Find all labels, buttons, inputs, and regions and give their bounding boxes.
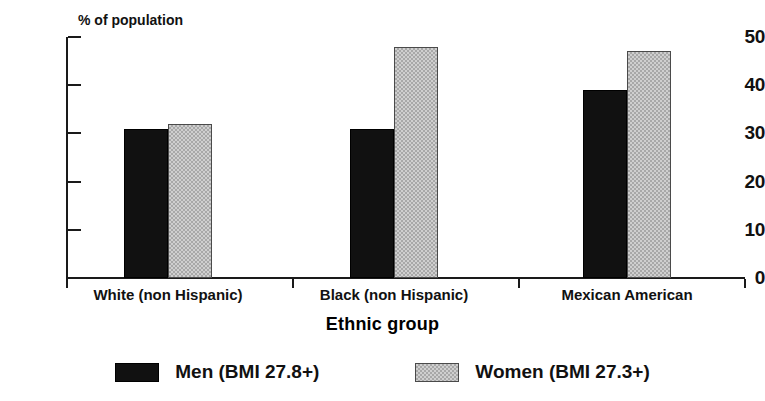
bar-chart: % of population 50 40 30 20 10 0 White (… [0,0,765,401]
bar-women-black [394,47,438,278]
bar-men-white [124,129,168,278]
y-axis-line [66,37,68,279]
y-axis-label-20: 20 [707,172,765,191]
y-axis-tick-30 [68,132,81,134]
legend-swatch-women-icon [415,363,459,382]
x-axis-category-white: White (non Hispanic) [58,286,278,303]
x-axis-category-mexican: Mexican American [517,286,737,303]
y-axis-tick-20 [68,181,81,183]
y-axis-label-0: 0 [707,268,765,287]
bar-women-white [168,124,212,278]
bar-men-black [350,129,394,278]
y-axis-unit-label: % of population [78,12,183,28]
y-axis-tick-10 [68,229,81,231]
legend-swatch-men-icon [115,363,159,382]
y-axis-label-40: 40 [707,75,765,94]
bar-women-mexican [627,51,671,278]
legend-label-men: Men (BMI 27.8+) [175,361,319,383]
y-axis-label-30: 30 [707,123,765,142]
legend-label-women: Women (BMI 27.3+) [475,361,649,383]
x-axis-title: Ethnic group [0,314,765,335]
x-axis-tick-3 [744,279,746,288]
legend-item-men: Men (BMI 27.8+) [115,361,319,383]
x-axis-category-black: Black (non Hispanic) [284,286,504,303]
plot-area: % of population 50 40 30 20 10 0 White (… [0,0,765,300]
y-axis-label-10: 10 [707,220,765,239]
legend-item-women: Women (BMI 27.3+) [415,361,649,383]
y-axis-label-50: 50 [707,27,765,46]
y-axis-tick-50 [68,36,81,38]
bar-men-mexican [583,90,627,278]
chart-legend: Men (BMI 27.8+) Women (BMI 27.3+) [0,352,765,392]
y-axis-tick-40 [68,84,81,86]
